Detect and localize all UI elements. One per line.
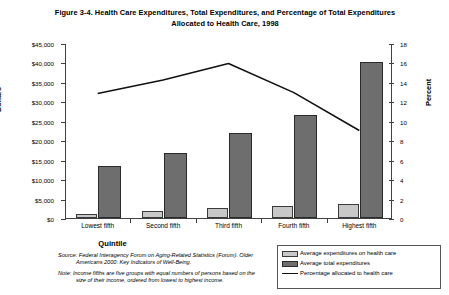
bar-total-expenditures xyxy=(229,133,252,218)
legend-item: Average expenditures on health care xyxy=(282,250,436,257)
y-tick-mark xyxy=(61,219,66,220)
bar-health-care-expenditures xyxy=(76,214,97,218)
legend-label: Average total expenditures xyxy=(300,260,370,267)
y-tick-label: $45,000 xyxy=(32,41,54,48)
y-tick-label: $10,000 xyxy=(32,177,54,184)
bar-total-expenditures xyxy=(294,115,317,218)
x-category-separator xyxy=(261,219,262,223)
figure-title-line1: Figure 3-4. Health Care Expenditures, To… xyxy=(55,8,346,17)
right-tick-label: 10 xyxy=(400,118,407,125)
bar-health-care-expenditures xyxy=(142,211,163,218)
right-tick-mark xyxy=(389,44,394,45)
x-category-separator xyxy=(130,219,131,223)
right-tick-mark xyxy=(389,161,394,162)
right-tick-label: 0 xyxy=(400,216,403,223)
right-tick-label: 4 xyxy=(400,177,403,184)
y-tick-mark xyxy=(61,180,66,181)
right-tick-label: 18 xyxy=(400,41,407,48)
y-tick-label: $30,000 xyxy=(32,99,54,106)
x-category-separator xyxy=(327,219,328,223)
bar-health-care-expenditures xyxy=(272,206,293,218)
figure-container: Figure 3-4. Health Care Expenditures, To… xyxy=(0,0,449,295)
y-axis-label: Dollars xyxy=(0,87,3,112)
right-tick-label: 12 xyxy=(400,99,407,106)
right-tick-label: 6 xyxy=(400,157,403,164)
legend-label: Percentage allocated to health care xyxy=(300,270,393,277)
y-tick-label: $40,000 xyxy=(32,60,54,67)
right-tick-mark xyxy=(389,200,394,201)
y-tick-label: $0 xyxy=(47,216,54,223)
legend-label: Average expenditures on health care xyxy=(300,250,396,257)
right-tick-mark xyxy=(389,102,394,103)
x-category-label: Highest fifth xyxy=(342,222,376,229)
y-tick-label: $25,000 xyxy=(32,118,54,125)
note-text: Note: Income fifths are five groups with… xyxy=(58,270,263,283)
source-note-block: Source: Federal Interagency Forum on Agi… xyxy=(58,252,263,283)
right-tick-mark xyxy=(389,63,394,64)
right-axis-label: Percent xyxy=(424,79,433,106)
bar-total-expenditures xyxy=(98,166,121,218)
note-prefix: Note: xyxy=(58,270,71,276)
legend-swatch-light xyxy=(282,251,298,257)
right-tick-label: 8 xyxy=(400,138,403,145)
right-tick-mark xyxy=(389,141,394,142)
y-tick-mark xyxy=(61,63,66,64)
note-body: Income fifths are five groups with equal… xyxy=(73,270,255,283)
bar-health-care-expenditures xyxy=(207,208,228,218)
x-category-label: Second fifth xyxy=(146,222,180,229)
bar-total-expenditures xyxy=(360,62,383,218)
plot-area xyxy=(65,44,392,219)
y-tick-mark xyxy=(61,83,66,84)
y-tick-label: $35,000 xyxy=(32,79,54,86)
x-category-separator xyxy=(196,219,197,223)
legend-swatch-dark xyxy=(282,261,298,267)
right-tick-mark xyxy=(389,83,394,84)
legend-swatch-line xyxy=(282,273,298,274)
legend-item: Percentage allocated to health care xyxy=(282,270,436,277)
legend-item: Average total expenditures xyxy=(282,260,436,267)
source-prefix: Source: xyxy=(58,252,77,258)
y-tick-label: $5,000 xyxy=(35,196,54,203)
source-text: Source: Federal Interagency Forum on Agi… xyxy=(58,252,263,265)
figure-title: Figure 3-4. Health Care Expenditures, To… xyxy=(40,8,410,29)
right-tick-label: 16 xyxy=(400,60,407,67)
y-tick-label: $20,000 xyxy=(32,138,54,145)
x-category-label: Lowest fifth xyxy=(81,222,114,229)
right-tick-label: 14 xyxy=(400,79,407,86)
chart-legend: Average expenditures on health careAvera… xyxy=(277,245,441,289)
x-category-label: Fourth fifth xyxy=(278,222,309,229)
right-tick-mark xyxy=(389,180,394,181)
bar-health-care-expenditures xyxy=(338,204,359,218)
right-tick-mark xyxy=(389,122,394,123)
right-tick-mark xyxy=(389,219,394,220)
right-tick-label: 2 xyxy=(400,196,403,203)
x-category-label: Third fifth xyxy=(215,222,242,229)
y-tick-mark xyxy=(61,141,66,142)
y-tick-mark xyxy=(61,122,66,123)
bar-total-expenditures xyxy=(164,153,187,218)
y-tick-mark xyxy=(61,161,66,162)
y-tick-mark xyxy=(61,102,66,103)
y-tick-mark xyxy=(61,200,66,201)
y-tick-mark xyxy=(61,44,66,45)
source-body: Federal Interagency Forum on Aging-Relat… xyxy=(76,252,253,265)
y-tick-label: $15,000 xyxy=(32,157,54,164)
